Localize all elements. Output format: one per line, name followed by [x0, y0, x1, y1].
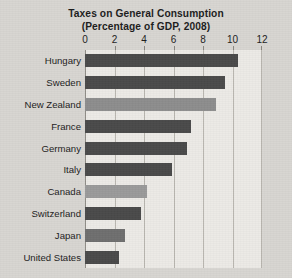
plot-area	[85, 50, 262, 268]
category-label-canada: Canada	[0, 185, 81, 198]
x-tick-label-0: 0	[82, 34, 88, 46]
chart-title-line-1: Taxes on General Consumption	[0, 7, 292, 20]
bar-sweden[interactable]	[85, 76, 225, 89]
bar-canada[interactable]	[85, 185, 147, 198]
category-label-france: France	[0, 120, 81, 133]
chart-title: Taxes on General Consumption (Percentage…	[0, 7, 292, 33]
bar-switzerland[interactable]	[85, 207, 141, 220]
bars-layer	[85, 50, 262, 268]
category-label-italy: Italy	[0, 163, 81, 176]
bar-japan[interactable]	[85, 229, 125, 242]
x-tick-label-6: 6	[171, 34, 177, 46]
x-tick-label-4: 4	[141, 34, 147, 46]
chart-title-line-2: (Percentage of GDP, 2008)	[0, 20, 292, 33]
category-label-hungary: Hungary	[0, 54, 81, 67]
category-label-japan: Japan	[0, 229, 81, 242]
bar-hungary[interactable]	[85, 54, 238, 67]
bar-united-states[interactable]	[85, 251, 119, 264]
bar-france[interactable]	[85, 120, 191, 133]
category-label-new-zealand: New Zealand	[0, 98, 81, 111]
bar-chart-figure: Taxes on General Consumption (Percentage…	[0, 0, 292, 278]
category-label-germany: Germany	[0, 142, 81, 155]
bar-new-zealand[interactable]	[85, 98, 216, 111]
category-label-sweden: Sweden	[0, 76, 81, 89]
category-axis-labels: HungarySwedenNew ZealandFranceGermanyIta…	[0, 50, 81, 268]
bar-germany[interactable]	[85, 142, 187, 155]
x-tick-label-8: 8	[200, 34, 206, 46]
x-tick-label-10: 10	[227, 34, 238, 46]
x-tick-label-12: 12	[256, 34, 267, 46]
category-label-switzerland: Switzerland	[0, 207, 81, 220]
category-label-united-states: United States	[0, 251, 81, 264]
bar-italy[interactable]	[85, 163, 172, 176]
x-tick-label-2: 2	[112, 34, 118, 46]
